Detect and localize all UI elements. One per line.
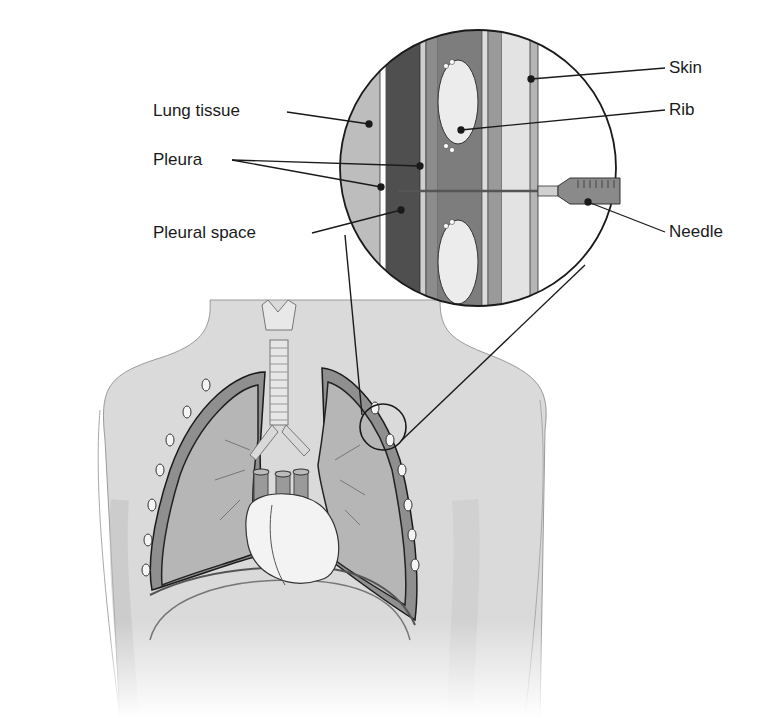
label-pleura: Pleura — [153, 151, 202, 168]
thoracentesis-diagram — [0, 0, 773, 718]
magnified-inset — [340, 20, 620, 320]
label-skin: Skin — [669, 59, 702, 76]
label-needle: Needle — [669, 223, 723, 240]
label-pleural-space: Pleural space — [153, 224, 256, 241]
label-lung-tissue: Lung tissue — [153, 102, 240, 119]
label-rib: Rib — [669, 101, 695, 118]
